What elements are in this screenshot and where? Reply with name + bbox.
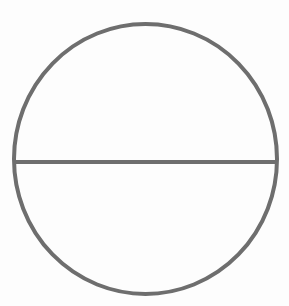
diagram-canvas [0, 0, 289, 306]
circle-diagram [0, 0, 289, 306]
circle-outline [14, 24, 277, 294]
